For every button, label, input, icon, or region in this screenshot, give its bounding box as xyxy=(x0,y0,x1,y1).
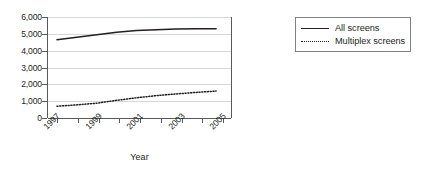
legend-item-all-screens: All screens xyxy=(300,21,406,34)
y-tick-label-5000: 5,000 xyxy=(21,30,42,39)
legend-label-multiplex-screens: Multiplex screens xyxy=(335,36,405,46)
legend-item-multiplex-screens: Multiplex screens xyxy=(300,34,406,47)
x-axis-title: Year xyxy=(47,152,232,162)
x-tick-label-1997: 1997 xyxy=(42,112,62,132)
chart-legend: All screens Multiplex screens xyxy=(295,17,411,52)
legend-label-all-screens: All screens xyxy=(335,23,379,33)
chart-figure: 6,000 5,000 4,000 3,000 2,000 1,000 0 xyxy=(0,0,421,175)
y-tick-label-3000: 3,000 xyxy=(21,63,42,72)
data-series-layer xyxy=(47,17,232,118)
x-tick-mark xyxy=(78,118,79,123)
y-tick-label-1000: 1,000 xyxy=(21,97,42,106)
series-line-multiplex-screens xyxy=(57,91,216,106)
y-tick-label-6000: 6,000 xyxy=(21,13,42,22)
legend-swatch-solid-line-icon xyxy=(300,23,330,33)
y-tick-label-4000: 4,000 xyxy=(21,46,42,55)
y-tick-label-2000: 2,000 xyxy=(21,80,42,89)
x-tick-mark xyxy=(119,118,120,123)
x-tick-mark xyxy=(161,118,162,123)
series-line-all-screens xyxy=(57,29,216,40)
legend-swatch-dotted-line-icon xyxy=(300,36,330,46)
x-tick-mark xyxy=(202,118,203,123)
y-axis-labels: 6,000 5,000 4,000 3,000 2,000 1,000 0 xyxy=(0,0,42,175)
